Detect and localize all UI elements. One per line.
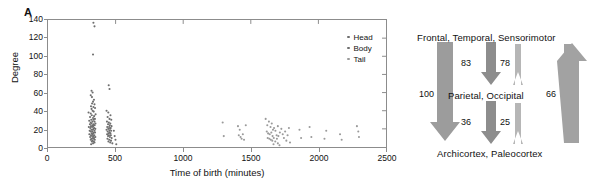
- data-point: [268, 121, 270, 123]
- data-point: [278, 144, 280, 146]
- x-axis-tick-labels: 05001000150020002500: [47, 153, 387, 165]
- data-point: [91, 126, 93, 128]
- series-head: [88, 22, 97, 146]
- data-point: [92, 101, 94, 103]
- data-point: [271, 122, 273, 124]
- arrow-36: [481, 101, 501, 144]
- data-point: [280, 128, 282, 130]
- node-label-frontal-temporal-sensorimotor: Frontal, Temporal, Sensorimotor: [417, 32, 556, 43]
- arrow-83: [481, 42, 501, 85]
- data-point: [109, 136, 111, 138]
- data-point: [114, 139, 116, 141]
- y-axis-tick-labels: 020406080100120140: [18, 19, 43, 148]
- y-tick-label: 120: [29, 32, 43, 42]
- data-point: [94, 139, 96, 141]
- data-point: [284, 131, 286, 133]
- data-point: [300, 137, 302, 139]
- data-point: [245, 124, 247, 126]
- data-point: [107, 135, 109, 137]
- data-point: [110, 134, 112, 136]
- data-point: [90, 108, 92, 110]
- data-point: [242, 133, 244, 135]
- data-point: [94, 131, 96, 133]
- y-tick-label: 60: [34, 88, 43, 98]
- data-point: [107, 131, 109, 133]
- data-point: [272, 135, 274, 137]
- data-point: [271, 140, 273, 142]
- data-point: [277, 142, 279, 144]
- data-point: [272, 143, 274, 145]
- data-point: [106, 126, 108, 128]
- legend-label: Body: [354, 44, 372, 53]
- data-point: [106, 121, 108, 123]
- data-point: [298, 129, 300, 131]
- data-point: [238, 134, 240, 136]
- data-point: [93, 115, 95, 117]
- data-point: [110, 130, 112, 132]
- panel-a: A Degree 020406080100120140 050010001500…: [0, 0, 400, 186]
- data-point: [109, 122, 111, 124]
- data-point: [357, 131, 359, 133]
- legend-marker-icon: [347, 36, 350, 39]
- data-point: [274, 130, 276, 132]
- data-point: [94, 107, 96, 109]
- data-point: [113, 130, 115, 132]
- data-point: [279, 131, 281, 133]
- data-point: [93, 111, 95, 113]
- x-tick-label: 1000: [174, 153, 193, 163]
- data-point: [107, 123, 109, 125]
- data-point: [91, 96, 93, 98]
- legend-item-body: Body: [347, 43, 373, 53]
- legend-label: Tail: [354, 55, 366, 64]
- data-point: [109, 124, 111, 126]
- data-point: [106, 138, 108, 140]
- data-point: [108, 88, 110, 90]
- data-point: [90, 94, 92, 96]
- data-point: [93, 121, 95, 123]
- data-point: [91, 114, 93, 116]
- data-point: [310, 136, 312, 138]
- scatter-points-canvas: [48, 20, 386, 147]
- data-point: [92, 119, 94, 121]
- data-point: [289, 141, 291, 143]
- arrow-25: [513, 103, 523, 144]
- data-point: [273, 127, 275, 129]
- data-point: [270, 131, 272, 133]
- data-point: [111, 125, 113, 127]
- data-point: [91, 141, 93, 143]
- data-point: [109, 128, 111, 130]
- data-point: [222, 121, 224, 123]
- data-point: [108, 118, 110, 120]
- data-point: [341, 139, 343, 141]
- x-tick-mark: [183, 148, 184, 152]
- legend-marker-icon: [347, 47, 350, 50]
- data-point: [91, 135, 93, 137]
- data-point: [274, 141, 276, 143]
- data-point: [89, 136, 91, 138]
- edge-value-100: 100: [419, 89, 434, 99]
- y-tick-label: 100: [29, 51, 43, 61]
- data-point: [105, 129, 107, 131]
- data-point: [94, 122, 96, 124]
- x-tick-label: 2000: [310, 153, 329, 163]
- data-point: [92, 142, 94, 144]
- data-point: [106, 133, 108, 135]
- data-point: [282, 133, 284, 135]
- scatter-plot-area: [47, 19, 387, 148]
- data-point: [265, 118, 267, 120]
- arrow-66: [557, 43, 587, 143]
- node-label-archicortex-paleocortex: Archicortex, Paleocortex: [437, 148, 542, 159]
- data-point: [323, 138, 325, 140]
- data-point: [90, 131, 92, 133]
- data-point: [266, 131, 268, 133]
- x-tick-label: 2500: [378, 153, 397, 163]
- y-tick-label: 40: [34, 106, 43, 116]
- data-point: [111, 142, 113, 144]
- data-point: [92, 22, 94, 24]
- data-point: [272, 129, 274, 131]
- data-point: [283, 137, 285, 139]
- data-point: [109, 114, 111, 116]
- node-label-parietal-occipital: Parietal, Occipital: [448, 90, 524, 101]
- edge-value-78: 78: [500, 58, 510, 68]
- data-point: [287, 134, 289, 136]
